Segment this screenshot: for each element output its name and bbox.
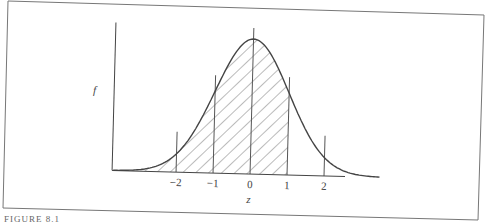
x-tick-label: 1	[284, 179, 290, 191]
figure-caption: FIGURE 8.1	[4, 214, 60, 222]
x-tick-label: 0	[247, 178, 253, 190]
normal-distribution-figure: −2−1012 f z	[0, 0, 485, 222]
z-line	[324, 136, 325, 176]
x-tick-label: 2	[321, 180, 327, 192]
y-axis-label: f	[93, 84, 98, 96]
x-tick-label: −1	[207, 177, 219, 189]
y-axis	[112, 22, 116, 170]
x-tick-labels: −2−1012	[170, 176, 327, 192]
shaded-area	[113, 35, 290, 175]
x-axis-label: z	[245, 193, 251, 205]
x-tick-label: −2	[170, 176, 182, 188]
